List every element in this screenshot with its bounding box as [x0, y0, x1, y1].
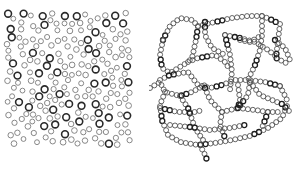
bold-particle: [36, 70, 43, 77]
chain-particle: [225, 17, 230, 22]
particle: [55, 38, 60, 43]
particle: [36, 28, 41, 33]
particle: [82, 138, 87, 143]
chain-particle: [183, 141, 188, 146]
chain-particle: [168, 123, 173, 128]
bold-particle: [8, 34, 15, 41]
chain-particle: [254, 14, 259, 19]
chain-particle: [240, 14, 245, 19]
bold-particle: [73, 13, 80, 20]
chain-particle: [229, 107, 234, 112]
chain-particle: [226, 47, 231, 52]
chain-particle: [237, 124, 242, 129]
chain-particle: [260, 14, 265, 19]
bold-particle: [96, 120, 103, 127]
chain-particle: [232, 35, 237, 40]
chain-particle: [179, 16, 184, 21]
particle: [47, 116, 53, 122]
particle: [5, 78, 11, 84]
particle: [15, 130, 20, 135]
particle: [62, 21, 67, 26]
particle: [55, 28, 60, 33]
dispersed-particles-illustration: [0, 0, 149, 169]
particle: [31, 130, 36, 135]
particle: [123, 122, 129, 128]
particle: [100, 104, 105, 109]
particle: [19, 116, 24, 121]
particle: [47, 94, 52, 99]
chain-particle: [204, 156, 209, 161]
particle: [107, 43, 112, 48]
bold-particle: [92, 66, 99, 73]
particle: [23, 39, 28, 44]
particle: [102, 72, 107, 77]
chain-particle: [246, 90, 251, 95]
particle: [115, 123, 120, 128]
chain-particle: [195, 29, 200, 34]
particle: [28, 13, 33, 18]
bold-particle: [7, 26, 14, 33]
bold-particle: [41, 123, 48, 130]
bold-particle: [91, 80, 98, 87]
particle: [97, 129, 102, 134]
particle: [74, 47, 80, 53]
particle: [16, 80, 21, 85]
chain-particle: [232, 125, 237, 130]
particle: [118, 32, 123, 37]
particle: [103, 13, 109, 19]
particle: [118, 112, 123, 117]
chain-particle: [287, 57, 292, 62]
bold-particle: [41, 22, 48, 29]
chain-particle: [184, 91, 189, 96]
particle: [105, 61, 110, 66]
bold-particle: [120, 20, 127, 27]
chain-particle: [219, 114, 224, 119]
particle: [30, 37, 35, 42]
chain-particle: [200, 55, 205, 60]
chain-particle: [213, 140, 218, 145]
chain-particle: [228, 87, 233, 92]
particle: [17, 35, 22, 40]
chain-particle: [193, 39, 198, 44]
particle: [75, 141, 80, 146]
chain-particle: [202, 127, 207, 132]
particle: [30, 112, 35, 117]
bold-particle: [78, 102, 85, 109]
particle: [51, 86, 56, 91]
particle-network-illustration: [149, 0, 298, 169]
particle: [24, 111, 29, 116]
particle: [91, 116, 96, 121]
chain-particle: [230, 16, 235, 21]
bold-particle: [26, 104, 33, 111]
chain-particle: [172, 109, 177, 114]
particle: [83, 114, 88, 119]
particle: [102, 38, 107, 43]
particle: [103, 129, 108, 134]
particle: [56, 51, 62, 57]
chain-particle: [209, 85, 214, 90]
chain-particle: [158, 57, 163, 62]
chain-particle: [245, 107, 250, 112]
chain-particle: [212, 127, 217, 132]
chain-particle: [236, 88, 241, 93]
particle: [127, 138, 132, 143]
bold-particle: [62, 131, 69, 138]
chain-particle: [265, 96, 270, 101]
particle: [48, 74, 53, 79]
particle: [11, 141, 17, 147]
particle: [40, 51, 45, 56]
chain-particle: [278, 22, 283, 27]
particle: [103, 96, 109, 102]
bold-particle: [5, 10, 12, 17]
chain-particle: [224, 108, 229, 113]
particle: [107, 104, 113, 110]
particle: [123, 10, 128, 15]
particle: [122, 71, 127, 76]
chain-particle: [223, 33, 228, 38]
chain-particle: [162, 107, 167, 112]
particle: [5, 99, 10, 104]
dispersed-particles-panel: [0, 0, 149, 169]
particle: [28, 78, 34, 84]
particle: [125, 48, 131, 54]
chain-particle: [218, 140, 223, 145]
